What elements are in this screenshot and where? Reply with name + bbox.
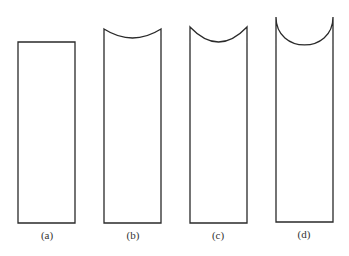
shape-d-deep-concave-top	[276, 17, 333, 222]
panel-label-d: (d)	[298, 228, 311, 240]
diagram-canvas	[0, 0, 349, 256]
shape-c-medium-concave-top	[190, 27, 247, 223]
panel-label-b: (b)	[127, 229, 140, 241]
panel-label-a: (a)	[41, 229, 53, 241]
shape-a-rectangle	[18, 42, 75, 223]
panel-label-c: (c)	[212, 229, 224, 241]
shape-b-shallow-concave-top	[104, 29, 161, 223]
